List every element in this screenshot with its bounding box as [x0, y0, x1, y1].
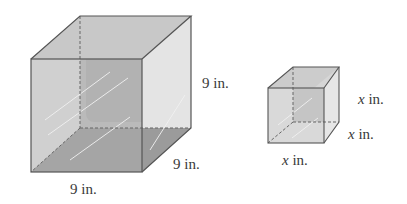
large-cube-width-label: 9 in.: [70, 182, 97, 197]
small-cube-depth-label: x in.: [348, 127, 374, 142]
small-cube-depth-var: x: [348, 126, 355, 142]
small-cube-width-var: x: [282, 152, 289, 168]
large-cube-height-label: 9 in.: [202, 76, 229, 91]
small-cube-height-label: x in.: [358, 92, 384, 107]
large-cube-depth-label: 9 in.: [173, 157, 200, 172]
small-cube-height-var: x: [358, 91, 365, 107]
large-cube: [31, 16, 191, 172]
small-cube-width-unit: in.: [289, 152, 308, 168]
small-cube-depth-unit: in.: [355, 126, 374, 142]
small-cube-height-unit: in.: [365, 91, 384, 107]
cubes-diagram: [0, 0, 407, 204]
small-cube: [268, 67, 339, 143]
large-cube-front-face: [31, 59, 142, 172]
small-cube-width-label: x in.: [282, 153, 308, 168]
